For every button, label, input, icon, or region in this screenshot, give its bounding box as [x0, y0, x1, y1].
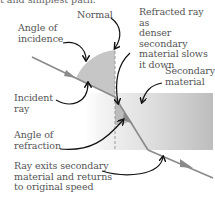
label-refracted-ray: Refracted ray as denser secondary materi… [139, 7, 215, 70]
normal-pointer-arrow-icon [111, 18, 120, 48]
label-ray-exits: Ray exits secondary material and returns… [14, 161, 112, 193]
label-normal: Normal [77, 10, 113, 21]
angle-incidence-pointer-arrow-icon [63, 42, 86, 60]
secondary-material-block [85, 93, 213, 150]
incident-ray-pointer-arrow-icon [56, 83, 88, 104]
label-incident-ray: Incident ray [14, 93, 53, 114]
label-secondary-material: Secondary material [165, 66, 215, 87]
angle-of-incidence-wedge [76, 50, 115, 97]
label-angle-of-incidence: Angle of incidence [18, 23, 63, 44]
exit-ray-arrowhead-icon [180, 159, 193, 168]
label-angle-of-refraction: Angle of refraction [14, 130, 61, 151]
incident-ray-arrowhead-icon [64, 70, 76, 78]
